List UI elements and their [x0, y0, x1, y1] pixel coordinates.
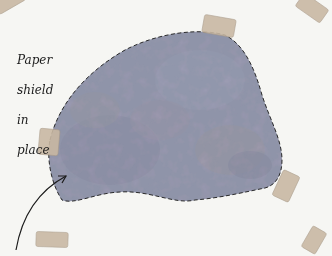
handwritten-annotation: Paper shield in place	[17, 38, 77, 173]
annotation-line: shield	[17, 83, 77, 98]
paint-patch	[40, 25, 290, 210]
bottom-left-tape	[36, 231, 69, 247]
painted-patch-photo: Paper shield in place	[0, 0, 332, 256]
annotation-line: place	[17, 143, 77, 158]
annotation-line: Paper	[17, 53, 77, 68]
annotation-line: in	[17, 113, 77, 128]
top-left-tape	[0, 0, 26, 14]
bottom-right-tape	[301, 226, 327, 255]
top-right-tape	[295, 0, 329, 23]
